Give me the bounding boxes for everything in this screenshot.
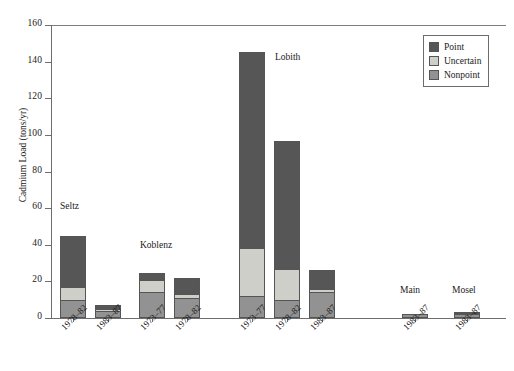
legend-item-uncertain[interactable]: Uncertain bbox=[429, 55, 481, 67]
legend-swatch-point-icon bbox=[429, 42, 439, 52]
y-tick-label: 40 bbox=[4, 238, 42, 248]
bar-segment-point bbox=[309, 270, 335, 288]
group-label-lobith: Lobith bbox=[275, 52, 300, 62]
bar-lobith-1978-82[interactable] bbox=[274, 141, 300, 318]
bar-segment-uncertain bbox=[60, 287, 86, 300]
y-tick-label: 160 bbox=[4, 18, 42, 28]
y-axis-label: Cadmium Load (tons/yr) bbox=[18, 50, 28, 260]
bar-segment-uncertain bbox=[139, 280, 165, 293]
y-tick-label: 80 bbox=[4, 165, 42, 175]
legend-item-nonpoint[interactable]: Nonpoint bbox=[429, 69, 481, 81]
legend-item-point[interactable]: Point bbox=[429, 41, 481, 53]
bar-segment-point bbox=[239, 52, 265, 248]
group-label-main: Main bbox=[400, 285, 420, 295]
y-tick-label: 60 bbox=[4, 201, 42, 211]
legend-label-uncertain: Uncertain bbox=[444, 56, 481, 66]
chart-legend: Point Uncertain Nonpoint bbox=[423, 35, 489, 87]
bar-segment-point bbox=[174, 278, 200, 294]
chart-figure: Cadmium Load (tons/yr) 16014012010080604… bbox=[0, 0, 514, 371]
y-tick-label: 140 bbox=[4, 55, 42, 65]
y-tick-label: 0 bbox=[4, 311, 42, 321]
bar-segment-uncertain bbox=[239, 248, 265, 296]
legend-swatch-nonpoint-icon bbox=[429, 70, 439, 80]
y-tick-label: 100 bbox=[4, 128, 42, 138]
group-label-mosel: Mosel bbox=[452, 285, 476, 295]
group-label-koblenz: Koblenz bbox=[140, 240, 172, 250]
bar-segment-uncertain bbox=[274, 269, 300, 300]
legend-swatch-uncertain-icon bbox=[429, 56, 439, 66]
bar-segment-point bbox=[60, 236, 86, 287]
y-tick-mark bbox=[45, 318, 51, 319]
y-tick-label: 20 bbox=[4, 274, 42, 284]
legend-label-nonpoint: Nonpoint bbox=[444, 70, 480, 80]
bar-segment-point bbox=[274, 141, 300, 268]
bar-lobith-1973-77[interactable] bbox=[239, 52, 265, 318]
group-label-seltz: Seltz bbox=[60, 201, 79, 211]
y-tick-label: 120 bbox=[4, 91, 42, 101]
legend-label-point: Point bbox=[444, 42, 464, 52]
